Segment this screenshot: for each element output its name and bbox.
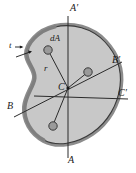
label-thickness-t: t: [9, 41, 12, 50]
label-axis-a-prime: A′: [70, 3, 78, 13]
label-axis-b-prime: B′: [112, 55, 120, 65]
label-axis-a: A: [68, 155, 74, 165]
label-radius-r: r: [44, 64, 48, 73]
label-area-element-da: dA: [50, 34, 60, 43]
area-element-dot-lower: [49, 122, 57, 130]
area-element-dot-upper-right: [84, 68, 92, 76]
label-axis-c-prime: C′: [118, 88, 127, 98]
label-centroid-c: C: [58, 82, 65, 92]
centroid-dot: [66, 86, 69, 89]
figure-canvas: [0, 0, 136, 173]
label-axis-b: B: [7, 101, 13, 111]
cross-section-figure: A′ A B B′ C′ C dA r t: [0, 0, 136, 173]
area-element-dot-upper-left: [44, 46, 52, 54]
